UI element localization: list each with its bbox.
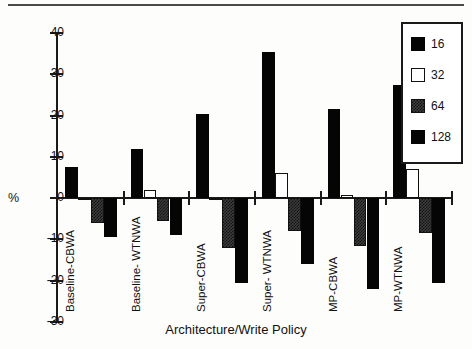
x-tick-mark	[320, 191, 322, 205]
bar-baseline-wtnwa-32	[144, 190, 156, 198]
y-tick-label: 20	[20, 109, 64, 121]
bar-mp-wtnwa-64	[419, 198, 431, 233]
bar-super-cbwa-64	[222, 198, 234, 248]
legend-label-128: 128	[431, 130, 451, 144]
bar-baseline-wtnwa-128	[170, 198, 182, 235]
x-axis-label-mp-wtnwa: MP-WTNWA	[392, 247, 404, 312]
bar-baseline-wtnwa-16	[131, 149, 143, 199]
x-tick-mark	[188, 191, 190, 205]
legend-item-32: 32	[411, 67, 444, 83]
bar-chart-figure: 403020100-10-20-30 Baseline-CBWABaseline…	[0, 0, 472, 349]
x-tick-mark	[451, 191, 453, 205]
bar-super-cbwa-16	[196, 114, 208, 199]
legend-label-64: 64	[431, 99, 444, 113]
bar-super-wtnwa-64	[288, 198, 300, 231]
bar-mp-cbwa-128	[367, 198, 379, 289]
bar-baseline-cbwa-64	[91, 198, 103, 223]
x-axis-label-baseline-wtnwa: Baseline- WTNWA	[130, 217, 142, 312]
x-tick-mark	[123, 191, 125, 205]
legend-swatch-32	[411, 68, 425, 82]
x-axis-title: Architecture/Write Policy	[0, 322, 472, 337]
bar-baseline-cbwa-128	[104, 198, 116, 237]
bar-mp-wtnwa-32	[406, 169, 418, 198]
legend-item-64: 64	[411, 98, 444, 114]
x-axis-label-super-cbwa: Super-CBWA	[195, 243, 207, 312]
y-tick-label: -10	[20, 232, 64, 244]
y-tick-label: -20	[20, 274, 64, 286]
y-tick-label: 0	[20, 191, 64, 203]
bar-baseline-cbwa-16	[65, 167, 77, 198]
bar-mp-cbwa-16	[328, 109, 340, 198]
bar-baseline-wtnwa-64	[157, 198, 169, 221]
bar-mp-wtnwa-128	[432, 198, 444, 283]
bar-mp-cbwa-32	[341, 195, 353, 198]
bar-super-wtnwa-16	[262, 52, 274, 199]
x-axis-label-baseline-cbwa: Baseline-CBWA	[64, 230, 76, 312]
legend-swatch-64	[411, 99, 425, 113]
x-axis-label-mp-cbwa: MP-CBWA	[327, 257, 339, 312]
legend-item-128: 128	[411, 129, 451, 145]
legend-swatch-128	[411, 130, 425, 144]
bar-super-wtnwa-32	[275, 173, 287, 198]
bar-super-cbwa-128	[235, 198, 247, 283]
x-tick-mark	[254, 191, 256, 205]
bar-super-wtnwa-128	[301, 198, 313, 264]
y-axis-label: %	[8, 191, 19, 205]
legend: 163264128	[401, 22, 463, 164]
y-tick-label: 30	[20, 67, 64, 79]
legend-label-16: 16	[431, 37, 444, 51]
y-tick-label: 10	[20, 150, 64, 162]
x-axis-label-super-wtnwa: Super- WTNWA	[261, 230, 273, 312]
bar-mp-cbwa-64	[354, 198, 366, 245]
bar-super-cbwa-32	[209, 198, 221, 200]
bar-baseline-cbwa-32	[78, 198, 90, 200]
x-tick-mark	[385, 191, 387, 205]
legend-label-32: 32	[431, 68, 444, 82]
legend-item-16: 16	[411, 36, 444, 52]
y-axis-ticks: 403020100-10-20-30	[0, 0, 64, 349]
y-tick-label: 40	[20, 26, 64, 38]
legend-swatch-16	[411, 37, 425, 51]
